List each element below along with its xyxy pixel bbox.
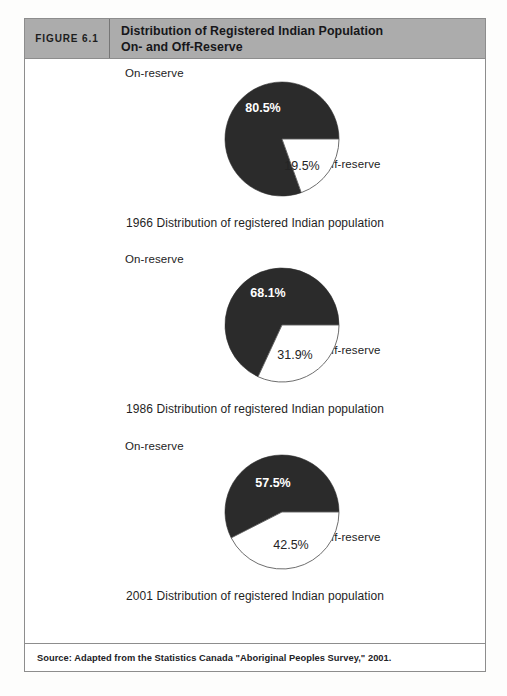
- pie-value-on-reserve-2001: 57.5%: [255, 476, 290, 490]
- pie-chart-2001: 57.5% 42.5%: [201, 442, 361, 582]
- pie-wrap-1986: On-reserve Off-reserve 68.1% 31.9%: [25, 249, 485, 399]
- pie-value-on-reserve-1966: 80.5%: [245, 101, 280, 115]
- figure-header: FIGURE 6.1 Distribution of Registered In…: [25, 19, 485, 59]
- figure-number-label: FIGURE 6.1: [35, 33, 98, 44]
- figure-title-cell: Distribution of Registered Indian Popula…: [110, 19, 485, 58]
- pie-value-off-reserve-1966: 19.5%: [284, 159, 319, 173]
- pie-value-on-reserve-1986: 68.1%: [250, 286, 285, 300]
- pie-slices-1966: [225, 82, 339, 196]
- figure-title-line-1: Distribution of Registered Indian Popula…: [121, 23, 485, 39]
- on-reserve-label-2001: On-reserve: [125, 440, 184, 452]
- pie-value-off-reserve-1986: 31.9%: [277, 348, 312, 362]
- pie-value-off-reserve-2001: 42.5%: [273, 538, 308, 552]
- chart-block-2001: On-reserve Off-reserve 57.5% 42.5% 2001 …: [25, 436, 485, 586]
- pie-wrap-1966: On-reserve Off-reserve 80.5% 19.5%: [25, 63, 485, 213]
- figure-number-cell: FIGURE 6.1: [25, 19, 110, 58]
- pie-chart-1966: 80.5% 19.5%: [201, 69, 361, 209]
- pie-chart-1986: 68.1% 31.9%: [201, 255, 361, 395]
- figure-container: FIGURE 6.1 Distribution of Registered In…: [24, 18, 486, 672]
- pie-wrap-2001: On-reserve Off-reserve 57.5% 42.5%: [25, 436, 485, 586]
- figure-title-line-2: On- and Off-Reserve: [121, 39, 485, 55]
- chart-caption-2001: 2001 Distribution of registered Indian p…: [25, 589, 485, 603]
- chart-block-1966: On-reserve Off-reserve 80.5% 19.5% 1966 …: [25, 63, 485, 213]
- chart-caption-1986: 1986 Distribution of registered Indian p…: [25, 402, 485, 416]
- source-note: Source: Adapted from the Statistics Cana…: [25, 653, 391, 663]
- chart-caption-1966: 1966 Distribution of registered Indian p…: [25, 216, 485, 230]
- figure-footer: Source: Adapted from the Statistics Cana…: [25, 643, 485, 671]
- figure-body: On-reserve Off-reserve 80.5% 19.5% 1966 …: [25, 59, 485, 645]
- chart-block-1986: On-reserve Off-reserve 68.1% 31.9% 1986 …: [25, 249, 485, 399]
- on-reserve-label-1966: On-reserve: [125, 67, 184, 79]
- on-reserve-label-1986: On-reserve: [125, 253, 184, 265]
